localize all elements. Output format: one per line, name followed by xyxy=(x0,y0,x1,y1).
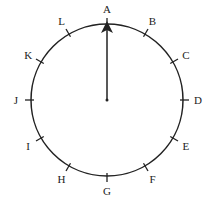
label-c: C xyxy=(182,49,189,61)
dial-diagram: ABCDEFGHIJKL xyxy=(0,0,210,202)
label-j: J xyxy=(14,94,19,106)
label-i: I xyxy=(26,140,30,152)
label-f: F xyxy=(149,173,155,185)
label-e: E xyxy=(182,140,189,152)
label-l: L xyxy=(58,15,65,27)
label-k: K xyxy=(24,49,32,61)
label-d: D xyxy=(194,94,202,106)
pivot-dot xyxy=(106,99,109,102)
label-g: G xyxy=(103,185,111,197)
label-h: H xyxy=(58,173,66,185)
label-b: B xyxy=(149,15,156,27)
label-a: A xyxy=(103,3,111,15)
